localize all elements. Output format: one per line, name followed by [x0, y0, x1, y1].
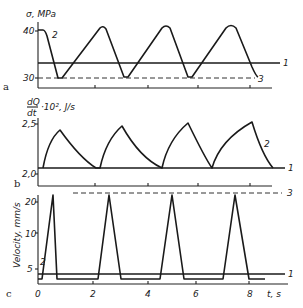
panel-b: dQ dt ·10², J/s 2,5 2,0 b 1 2 3: [14, 97, 294, 198]
panel-a-ylabel: σ, MPa: [26, 9, 56, 19]
panel-a-label-2: 2: [52, 30, 58, 40]
panel-c-xtick-2: 2: [90, 289, 96, 299]
panel-c: Velocity, mm/s 20 10 5 2 1 c 0 2 4 6 8 t…: [6, 195, 294, 299]
panel-c-xlabel: t, s: [267, 289, 281, 299]
panel-b-label-3: 3: [287, 188, 293, 198]
panel-c-letter: c: [6, 288, 12, 299]
panel-b-label-2: 2: [264, 139, 270, 149]
panel-b-tick-20: 2,0: [22, 169, 37, 179]
panel-c-xtick-4: 4: [145, 289, 151, 299]
panel-c-xtick-6: 6: [193, 289, 199, 299]
panel-c-label-1: 1: [288, 269, 294, 279]
panel-b-ylabel-num: dQ: [27, 97, 40, 107]
panel-c-tick-20: 20: [25, 197, 37, 207]
panel-c-ylabel: Velocity, mm/s: [12, 202, 22, 268]
figure: σ, MPa 40 30 a 1 3 2 dQ dt ·10², J/s: [0, 0, 303, 308]
panel-c-curve-2: [38, 195, 265, 279]
panel-b-tick-25: 2,5: [22, 119, 37, 129]
panel-c-xtick-0: 0: [35, 289, 41, 299]
panel-c-tick-5: 5: [27, 264, 33, 274]
panel-a-letter: a: [3, 81, 9, 92]
panel-a-label-1: 1: [283, 58, 289, 68]
panel-c-tick-10: 10: [25, 229, 37, 239]
panel-a-tick-40: 40: [23, 26, 35, 36]
panel-b-letter: b: [14, 178, 20, 189]
panel-a: σ, MPa 40 30 a 1 3 2: [3, 9, 289, 92]
panel-b-ylabel-rest: ·10², J/s: [41, 102, 75, 112]
panel-b-label-1: 1: [288, 163, 294, 173]
panel-c-xtick-8: 8: [247, 289, 253, 299]
panel-a-tick-30: 30: [23, 73, 35, 83]
panel-a-label-3: 3: [258, 74, 264, 84]
panel-b-ylabel-den: dt: [27, 108, 37, 118]
panel-a-curve-2: [38, 26, 258, 79]
panel-b-curve-2: [43, 122, 273, 168]
